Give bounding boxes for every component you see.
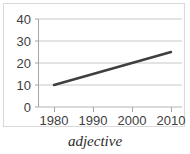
y-tick-label-30: 30 <box>3 35 31 48</box>
chart-figure: 40 30 20 10 0 1980 1990 2000 2010 adject… <box>0 0 190 154</box>
y-tick-label-10: 10 <box>3 79 31 92</box>
x-tick-label-2000: 2000 <box>112 114 152 127</box>
x-axis-ticks <box>55 107 172 112</box>
y-tick-label-40: 40 <box>3 13 31 26</box>
data-series-trend <box>54 52 171 85</box>
chart-plot-frame: 40 30 20 10 0 1980 1990 2000 2010 <box>3 3 185 127</box>
gridlines-horizontal <box>38 19 182 107</box>
x-tick-label-1980: 1980 <box>34 114 74 127</box>
x-tick-label-2010: 2010 <box>151 114 190 127</box>
figure-caption: adjective <box>0 132 190 150</box>
y-tick-label-0: 0 <box>3 101 31 114</box>
x-tick-label-1990: 1990 <box>73 114 113 127</box>
y-axis-ticks <box>35 19 38 107</box>
y-tick-label-20: 20 <box>3 57 31 70</box>
line-chart-svg <box>4 4 184 126</box>
